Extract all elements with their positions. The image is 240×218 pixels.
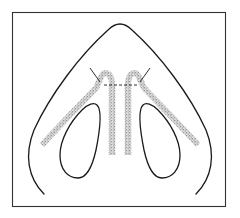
left-columellar-strut [109,86,115,155]
left-nostril [60,104,100,178]
nasal-base-diagram [0,0,240,218]
right-nostril [140,104,180,178]
nasal-tip-outline [29,24,212,194]
figure [0,0,240,218]
left-lateral-graft [42,73,112,145]
right-lateral-graft [128,73,198,145]
right-columellar-strut [125,86,131,155]
